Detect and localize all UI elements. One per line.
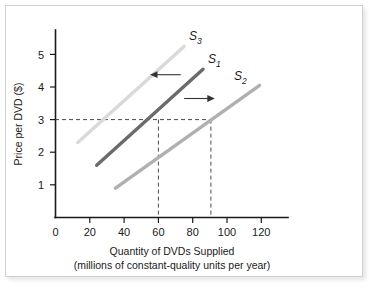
x-tick-label-80: 80 bbox=[187, 226, 199, 238]
x-tick-label-0: 0 bbox=[52, 226, 58, 238]
y-tick-label-4: 4 bbox=[38, 81, 44, 93]
rightward-shift-arrow bbox=[184, 95, 215, 102]
curve-label-S1: S 1 bbox=[208, 52, 221, 69]
supply-curve-chart: 5 4 3 2 1 0 20 40 60 80 100 120 bbox=[0, 0, 377, 289]
x-tick-label-100: 100 bbox=[218, 226, 236, 238]
x-axis-ticks bbox=[90, 218, 261, 224]
x-tick-label-40: 40 bbox=[118, 226, 130, 238]
figure-root: 5 4 3 2 1 0 20 40 60 80 100 120 bbox=[0, 0, 377, 289]
curve-label-S1-text: S bbox=[208, 52, 216, 66]
x-axis-subtitle: (millions of constant-quality units per … bbox=[74, 259, 271, 271]
y-tick-label-2: 2 bbox=[38, 146, 44, 158]
curve-label-S3-text: S bbox=[189, 29, 197, 43]
y-axis-title: Price per DVD ($) bbox=[12, 83, 24, 166]
x-tick-label-20: 20 bbox=[84, 226, 96, 238]
supply-curve-S2 bbox=[116, 85, 260, 188]
x-tick-label-120: 120 bbox=[252, 226, 270, 238]
y-tick-label-5: 5 bbox=[38, 49, 44, 61]
y-tick-label-3: 3 bbox=[38, 114, 44, 126]
supply-curve-S3 bbox=[78, 46, 184, 142]
curve-label-S2: S 2 bbox=[234, 69, 247, 86]
curve-label-S2-text: S bbox=[234, 69, 242, 83]
curve-label-S2-subscript: 2 bbox=[241, 76, 247, 86]
y-axis-ticks bbox=[50, 54, 55, 184]
supply-curve-S1 bbox=[97, 69, 203, 165]
curve-label-S3-subscript: 3 bbox=[197, 36, 202, 46]
x-tick-label-60: 60 bbox=[152, 226, 164, 238]
curve-label-S3: S 3 bbox=[189, 29, 202, 46]
curve-label-S1-subscript: 1 bbox=[216, 59, 221, 69]
y-tick-label-1: 1 bbox=[38, 179, 44, 191]
x-axis-title: Quantity of DVDs Supplied bbox=[110, 245, 235, 257]
